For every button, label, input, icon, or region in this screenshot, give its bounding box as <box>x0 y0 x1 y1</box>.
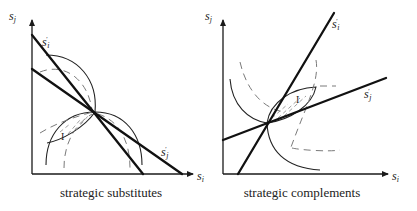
dashed-isoprofit-c <box>292 148 340 151</box>
region-label-right: I <box>296 94 299 105</box>
region-label-left: I <box>61 131 64 142</box>
y-axis-label-left: sj <box>9 10 16 24</box>
reaction-function-i-left <box>32 35 143 174</box>
substitutes-panel <box>32 20 193 174</box>
x-axis-label-right: si <box>392 170 399 184</box>
reaction-j-label-right: s'j <box>364 88 371 102</box>
reaction-i-label-right: s'i <box>332 18 339 32</box>
diagram-canvas <box>0 0 417 211</box>
lens-solid <box>267 87 316 123</box>
caption-complements: strategic complements <box>244 185 361 201</box>
x-axis-label-left: si <box>197 170 204 184</box>
reaction-i-label-left: s'i <box>42 36 49 50</box>
dashed-isoprofit-1 <box>40 69 92 110</box>
reaction-function-j-right <box>223 78 386 140</box>
reaction-j-label-left: s'j <box>161 146 168 160</box>
isoprofit-j-lower-right <box>95 112 142 165</box>
isoprofit-j-bottom <box>267 123 320 170</box>
y-axis-label-right: sj <box>205 10 212 24</box>
strategic-interaction-figure: sj si s'i s'j I strategic substitutes sj… <box>0 0 417 211</box>
reaction-function-j-left <box>32 69 182 174</box>
reaction-function-i-right <box>238 13 334 174</box>
caption-substitutes: strategic substitutes <box>60 185 162 201</box>
